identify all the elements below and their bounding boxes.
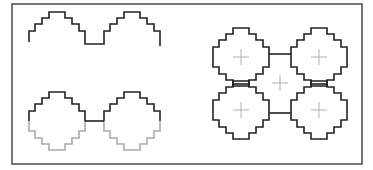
center-cross-icon bbox=[311, 102, 327, 118]
diagram-canvas bbox=[0, 0, 373, 170]
stepped-wave bbox=[29, 12, 160, 46]
tile-upper-half bbox=[104, 92, 160, 121]
center-cross-icon bbox=[272, 75, 288, 91]
center-cross-icon bbox=[233, 102, 249, 118]
tile-cluster bbox=[213, 28, 347, 139]
wave-line bbox=[29, 12, 160, 46]
center-cross-icon bbox=[233, 49, 249, 65]
stepped-tile bbox=[104, 92, 160, 150]
tile-lower-half bbox=[104, 121, 160, 150]
center-cross-icon bbox=[311, 49, 327, 65]
tile-pattern-figure bbox=[0, 0, 373, 170]
tile-upper-half bbox=[29, 92, 85, 121]
figure-frame bbox=[12, 4, 362, 164]
tile-pair bbox=[29, 92, 160, 150]
tile-lower-half bbox=[29, 121, 85, 150]
stepped-tile bbox=[29, 92, 85, 150]
